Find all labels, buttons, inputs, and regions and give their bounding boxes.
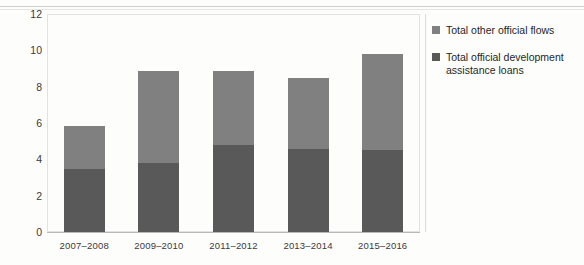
legend-swatch-icon-oda-loans [432, 53, 440, 61]
legend-item-oda-loans[interactable]: Total official development assistance lo… [432, 51, 580, 77]
y-axis-ticks: 024681012 [0, 0, 42, 10]
y-axis-tick-label: 2 [4, 191, 42, 201]
chart-legend: Total other official flows Total officia… [432, 24, 580, 91]
x-axis-line [47, 232, 420, 233]
legend-swatch-icon-other-official-flows [432, 26, 440, 34]
bar-column[interactable] [213, 71, 254, 232]
bar-segment-other-official-flows[interactable] [362, 54, 403, 150]
bar-segment-other-official-flows[interactable] [213, 71, 254, 145]
y-axis-tick-label: 4 [4, 154, 42, 164]
y-axis-tick-label: 12 [4, 9, 42, 19]
bar-column[interactable] [64, 126, 105, 232]
stacked-bar-chart: 024681012 2007–20082009–20102011–2012201… [0, 0, 584, 265]
bar-segment-oda-loans[interactable] [213, 145, 254, 232]
legend-label-other-official-flows: Total other official flows [446, 24, 580, 37]
legend-item-other-official-flows[interactable]: Total other official flows [432, 24, 580, 37]
bar-segment-oda-loans[interactable] [138, 163, 179, 232]
bar-segment-oda-loans[interactable] [288, 149, 329, 232]
bar-column[interactable] [362, 54, 403, 232]
y-axis-tick-label: 0 [4, 227, 42, 237]
legend-divider [425, 14, 426, 232]
chart-page: 024681012 2007–20082009–20102011–2012201… [0, 0, 584, 265]
bar-segment-oda-loans[interactable] [362, 150, 403, 232]
bar-segment-oda-loans[interactable] [64, 169, 105, 232]
bar-column[interactable] [138, 71, 179, 232]
x-axis-tick-label: 2015–2016 [338, 240, 428, 251]
legend-label-oda-loans: Total official development assistance lo… [446, 51, 580, 77]
y-axis-tick-label: 10 [4, 45, 42, 55]
bar-segment-other-official-flows[interactable] [138, 71, 179, 163]
bar-segment-other-official-flows[interactable] [64, 126, 105, 170]
bar-segment-other-official-flows[interactable] [288, 78, 329, 150]
y-axis-tick-label: 8 [4, 82, 42, 92]
bar-column[interactable] [288, 78, 329, 232]
y-axis-tick-label: 6 [4, 118, 42, 128]
